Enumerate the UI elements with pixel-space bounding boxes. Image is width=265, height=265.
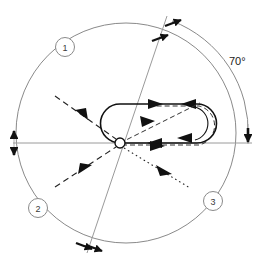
outgoing-dotted-arrow <box>124 148 190 188</box>
callout-1-label: 1 <box>62 43 67 53</box>
loop-top-flow-arrow <box>148 99 163 109</box>
callout-3[interactable]: 3 <box>204 192 223 211</box>
incoming-dashed-upper-arrow <box>55 96 116 139</box>
tilted-axis-line <box>87 16 167 253</box>
outer-boundary-arc <box>172 21 248 138</box>
callout-2[interactable]: 2 <box>29 199 48 218</box>
callout-3-label: 3 <box>210 197 215 207</box>
loop-right-upper-flow-arrow <box>181 99 196 109</box>
callout-2-label: 2 <box>35 204 40 214</box>
incoming-dashed-lower-arrow <box>55 147 116 187</box>
loop-right-lower-flow-arrow <box>177 133 192 143</box>
callout-1[interactable]: 1 <box>56 38 75 57</box>
main-circle <box>16 23 236 243</box>
angle-label: 70° <box>229 55 246 67</box>
diagram-canvas: 1 2 3 70° <box>0 0 265 265</box>
technical-diagram-svg: 1 2 3 70° <box>0 0 265 265</box>
origin-node <box>115 138 125 148</box>
